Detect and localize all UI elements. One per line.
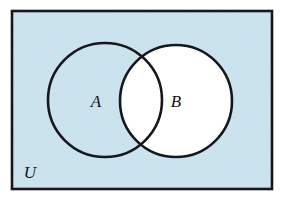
set-a-label: A (90, 92, 102, 111)
venn-diagram-canvas: A B U (0, 0, 283, 203)
venn-diagram-figure: A B U (0, 0, 283, 203)
set-b-label: B (171, 92, 182, 111)
universal-set-label: U (24, 163, 38, 182)
